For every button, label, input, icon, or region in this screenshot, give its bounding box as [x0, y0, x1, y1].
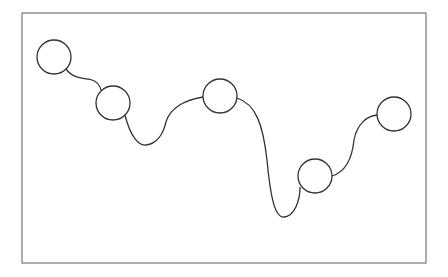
diagram-canvas: [0, 0, 448, 277]
edge-n1-n2: [66, 69, 101, 90]
diagram-frame: [22, 13, 426, 263]
node-n4: [298, 159, 332, 193]
edge-n4-n5: [332, 115, 377, 176]
node-n1: [37, 40, 71, 74]
node-n5: [377, 97, 411, 131]
node-n2: [96, 86, 130, 120]
node-n3: [203, 79, 237, 113]
edge-n2-n3: [125, 97, 203, 145]
node-group: [37, 40, 411, 193]
edge-n3-n4: [237, 98, 300, 217]
